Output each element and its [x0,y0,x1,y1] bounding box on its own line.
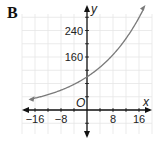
y-axis-label: y [90,2,98,16]
curve-right-arrow-icon [140,5,146,11]
curve-left-arrow-icon [29,96,35,101]
y-axis-down-arrow-icon [84,131,90,138]
y-axis-up-arrow-icon [84,5,90,12]
y-tick-label: 160 [65,51,83,63]
x-tick-label: 8 [110,113,116,125]
exponential-graph: −16−8816160240xyO [0,0,160,142]
x-tick-label: −8 [55,113,68,125]
y-tick-label: 240 [65,25,83,37]
origin-label: O [76,96,85,110]
x-tick-label: −16 [26,113,45,125]
x-axis-label: x [142,95,150,109]
x-tick-label: 16 [133,113,145,125]
